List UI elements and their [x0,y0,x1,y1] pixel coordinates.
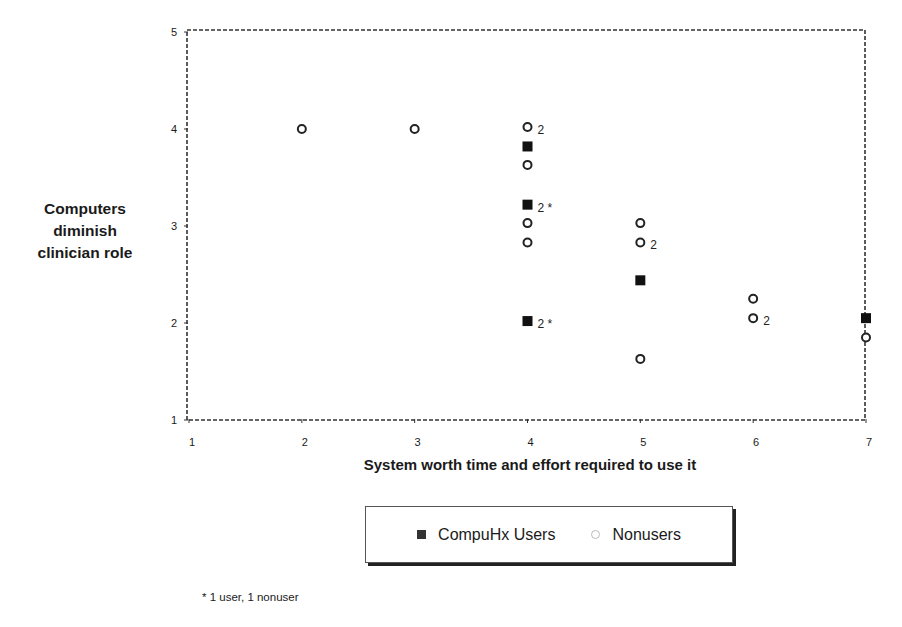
nonuser-point [749,295,757,303]
point-count-label: 2 [650,238,657,252]
filled-square-icon [417,530,426,539]
x-tick-label: 7 [866,436,872,448]
nonuser-point [636,355,644,363]
user-point [523,141,533,151]
point-count-label: 2 * [538,317,553,331]
user-point [635,275,645,285]
nonuser-point [298,125,306,133]
nonuser-point [524,161,532,169]
x-axis-label: System worth time and effort required to… [180,456,880,473]
point-count-label: 2 [763,314,770,328]
y-tick-label: 5 [171,26,177,38]
x-tick-label: 5 [640,436,646,448]
x-tick-label: 2 [302,436,308,448]
legend: CompuHx Users Nonusers [365,506,733,563]
user-point [523,200,533,210]
nonuser-point [636,238,644,246]
y-axis-label: Computers diminish clinician role [20,198,150,264]
y-tick-label: 2 [171,317,177,329]
legend-item-nonusers: Nonusers [591,526,680,544]
point-count-label: 2 [538,123,545,137]
y-label-line-1: Computers [20,198,150,220]
nonuser-point [862,334,870,342]
y-tick-label: 1 [171,414,177,426]
point-count-label: 2 * [538,201,553,215]
axis-ticks: 123451234567 [171,26,872,448]
nonuser-point [524,123,532,131]
x-tick-label: 4 [527,436,533,448]
user-point [523,316,533,326]
footnote: * 1 user, 1 nonuser [202,591,299,603]
y-label-line-2: diminish [20,220,150,242]
open-circle-icon [591,530,600,539]
legend-nonusers-label: Nonusers [612,526,680,544]
nonuser-point [749,314,757,322]
y-tick-label: 4 [171,123,177,135]
nonuser-point [411,125,419,133]
y-label-line-3: clinician role [20,242,150,264]
user-point [861,313,871,323]
nonuser-point [636,219,644,227]
nonuser-point [524,238,532,246]
legend-item-users: CompuHx Users [417,526,555,544]
x-tick-label: 6 [753,436,759,448]
legend-users-label: CompuHx Users [438,526,555,544]
nonuser-point [524,219,532,227]
x-tick-label: 1 [189,436,195,448]
x-tick-label: 3 [415,436,421,448]
data-points: 2 *2 *222 [298,123,871,363]
y-tick-label: 3 [171,220,177,232]
